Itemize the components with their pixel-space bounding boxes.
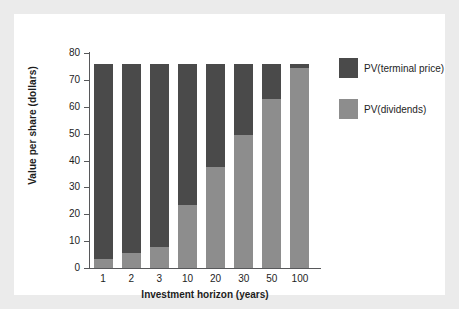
bar-stack [178,64,197,268]
chart-legend: PV(terminal price)PV(dividends) [339,58,459,140]
y-axis-tick-label: 60 [54,102,80,112]
bar-segment-dividends [234,135,253,268]
y-axis-tick-label-wrap: 10 [52,236,80,246]
bar-stack [234,64,253,268]
bar-segment-terminal-price [122,64,141,253]
x-axis-tick-label: 3 [144,273,174,284]
x-axis-tick-label: 50 [257,273,287,284]
bar-stack [122,64,141,268]
bar-segment-dividends [290,68,309,268]
bar-segment-dividends [206,167,225,268]
bar-stack [262,64,281,268]
bar-segment-terminal-price [206,64,225,167]
x-axis-tick-label: 10 [172,273,202,284]
legend-swatch-terminal-price [339,58,358,78]
bar-segment-dividends [262,99,281,268]
x-axis-tick-label: 30 [229,273,259,284]
bar-segment-terminal-price [178,64,197,205]
bar-segment-dividends [150,247,169,268]
bar-stack [290,64,309,268]
x-axis-line [89,268,321,269]
y-axis-tick-label-wrap: 20 [52,209,80,219]
bar-segment-dividends [94,259,113,268]
bar-stack [206,64,225,268]
y-axis-tick-label: 0 [54,263,80,273]
y-axis-tick-label: 30 [54,182,80,192]
bar-segment-terminal-price [150,64,169,247]
x-axis-tick-label: 100 [285,273,315,284]
legend-label-terminal-price: PV(terminal price) [364,63,444,74]
x-axis-label: Investment horizon (years) [89,289,321,300]
plot-area [89,53,314,268]
y-axis-tick-label: 10 [54,236,80,246]
y-axis-tick-label: 20 [54,209,80,219]
figure-canvas: Value per share (dollars) 01020304050607… [0,0,459,309]
y-axis-tick [84,268,89,269]
y-axis-tick-label: 40 [54,156,80,166]
bar-segment-terminal-price [290,64,309,68]
bar-segment-terminal-price [262,64,281,99]
legend-item-dividends[interactable]: PV(dividends) [339,99,459,119]
bar-stack [94,64,113,268]
bar-segment-terminal-price [94,64,113,259]
y-axis-tick-label: 70 [54,75,80,85]
y-axis-tick-label-wrap: 80 [52,48,80,58]
y-axis-tick-label: 50 [54,129,80,139]
y-axis-tick-label-wrap: 30 [52,182,80,192]
bar-stack [150,64,169,268]
y-axis-tick-label-wrap: 70 [52,75,80,85]
y-axis-tick-label-wrap: 50 [52,129,80,139]
x-axis-tick-label: 1 [88,273,118,284]
y-axis-label: Value per share (dollars) [27,46,38,206]
x-axis-tick-label: 20 [201,273,231,284]
legend-label-dividends: PV(dividends) [364,104,426,115]
chart-plate: Value per share (dollars) 01020304050607… [14,14,445,295]
y-axis-tick-label: 80 [54,48,80,58]
y-axis-tick-label-wrap: 0 [52,263,80,273]
bar-segment-terminal-price [234,64,253,135]
y-axis-tick-label-wrap: 60 [52,102,80,112]
legend-item-terminal-price[interactable]: PV(terminal price) [339,58,459,78]
y-axis-tick-label-wrap: 40 [52,156,80,166]
bar-segment-dividends [178,205,197,268]
bar-segment-dividends [122,253,141,268]
legend-swatch-dividends [339,99,358,119]
x-axis-tick-label: 2 [116,273,146,284]
